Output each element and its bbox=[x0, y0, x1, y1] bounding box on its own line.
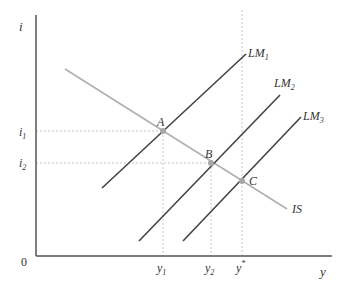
tick-i2: i2 bbox=[19, 156, 26, 172]
is-lm-diagram: A B C IS LM1 LM2 LM3 i y 0 i1 i2 y1 y2 y… bbox=[0, 0, 349, 289]
lm1-label: LM1 bbox=[247, 46, 269, 62]
tick-y1: y1 bbox=[156, 261, 166, 277]
point-c-label: C bbox=[249, 174, 258, 188]
lm-curves bbox=[102, 54, 301, 241]
tick-y2: y2 bbox=[204, 261, 214, 277]
lm3-label: LM3 bbox=[302, 109, 324, 125]
point-c bbox=[239, 178, 245, 184]
tick-ystar: y* bbox=[235, 259, 245, 275]
y-axis-label: i bbox=[19, 19, 23, 34]
tick-i1: i1 bbox=[19, 125, 26, 141]
lm2-label: LM2 bbox=[273, 76, 295, 92]
axes bbox=[36, 15, 332, 256]
x-axis-label: y bbox=[318, 264, 326, 279]
is-label: IS bbox=[291, 202, 302, 216]
guide-lines bbox=[36, 10, 242, 256]
point-a-label: A bbox=[156, 115, 165, 129]
origin-label: 0 bbox=[21, 255, 27, 269]
is-curve bbox=[65, 69, 287, 209]
point-b-label: B bbox=[205, 147, 213, 161]
lm1-curve bbox=[102, 54, 246, 188]
